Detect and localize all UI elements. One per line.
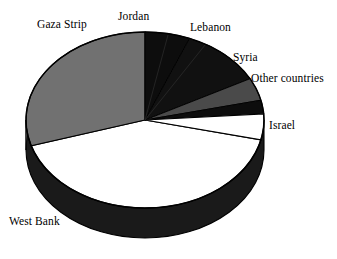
slice-label-other-countries: Other countries bbox=[251, 72, 324, 85]
pie-chart-figure: Jordan Gaza Strip Lebanon Syria Other co… bbox=[0, 0, 337, 259]
slice-label-syria: Syria bbox=[233, 51, 258, 64]
slice-label-gaza-strip: Gaza Strip bbox=[37, 18, 87, 31]
slice-label-west-bank: West Bank bbox=[9, 215, 60, 228]
slice-label-jordan: Jordan bbox=[118, 10, 149, 23]
slice-label-lebanon: Lebanon bbox=[190, 21, 231, 34]
slice-label-israel: Israel bbox=[269, 119, 295, 132]
pie-top-face bbox=[26, 32, 264, 208]
